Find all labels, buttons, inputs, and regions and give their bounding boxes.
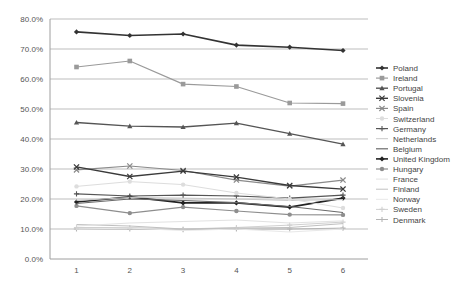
series-line — [77, 206, 344, 215]
legend-item-ireland: Ireland — [376, 74, 417, 83]
circle-marker-icon — [380, 116, 384, 120]
diamond-marker-icon — [127, 33, 132, 38]
series-france — [77, 220, 344, 226]
series-line — [77, 61, 344, 104]
circle-marker-icon — [181, 205, 185, 209]
series-hungary — [74, 204, 345, 217]
square-marker-icon — [181, 82, 186, 87]
circle-marker-icon — [234, 209, 238, 213]
diamond-marker-icon — [234, 43, 239, 48]
y-tick-label: 80.0% — [20, 15, 43, 24]
legend-label: Norway — [393, 195, 420, 204]
legend-item-switzerland: Switzerland — [376, 115, 434, 124]
legend-label: Poland — [393, 64, 418, 73]
y-tick-label: 50.0% — [20, 105, 43, 114]
x-tick-label: 4 — [234, 266, 239, 275]
circle-marker-icon — [341, 206, 345, 210]
legend-item-finland: Finland — [376, 185, 419, 194]
legend-label: Finland — [393, 185, 419, 194]
legend-item-united-kingdom: United Kingdom — [376, 155, 450, 164]
x-tick-label: 6 — [341, 266, 346, 275]
legend-item-denmark: Denmark — [376, 216, 426, 225]
legend-item-hungary: Hungary — [376, 165, 423, 174]
series-line — [77, 123, 344, 145]
series-portugal — [74, 120, 346, 146]
circle-marker-icon — [234, 191, 238, 195]
legend-label: Sweden — [393, 205, 422, 214]
legend-label: Switzerland — [393, 115, 434, 124]
y-tick-label: 0.0% — [25, 255, 43, 264]
diamond-marker-icon — [74, 29, 79, 34]
legend-label: Germany — [393, 125, 426, 134]
diamond-marker-icon — [379, 156, 384, 161]
circle-marker-icon — [128, 179, 132, 183]
legend-item-poland: Poland — [376, 64, 418, 73]
y-tick-label: 30.0% — [20, 165, 43, 174]
square-marker-icon — [128, 59, 133, 64]
legend-item-spain: Spain — [376, 104, 413, 113]
circle-marker-icon — [181, 182, 185, 186]
series-ireland — [74, 59, 345, 106]
plus-marker-icon — [379, 207, 384, 212]
plus-marker-icon — [340, 193, 345, 198]
legend-item-sweden: Sweden — [376, 205, 422, 214]
line-chart: 0.0%10.0%20.0%30.0%40.0%50.0%60.0%70.0%8… — [0, 0, 464, 283]
series-line — [77, 167, 344, 189]
legend-item-netherlands: Netherlands — [376, 135, 436, 144]
y-tick-label: 70.0% — [20, 45, 43, 54]
plus-marker-icon — [379, 126, 384, 131]
circle-marker-icon — [74, 184, 78, 188]
y-tick-label: 10.0% — [20, 225, 43, 234]
x-tick-label: 5 — [287, 266, 292, 275]
series-line — [77, 32, 344, 51]
legend-label: Hungary — [393, 165, 423, 174]
legend-item-norway: Norway — [376, 195, 420, 204]
legend-item-france: France — [376, 175, 418, 184]
plus-marker-icon — [181, 193, 186, 198]
diamond-marker-icon — [181, 31, 186, 36]
x-tick-label: 3 — [181, 266, 186, 275]
circle-marker-icon — [288, 212, 292, 216]
square-marker-icon — [380, 76, 385, 81]
legend-label: France — [393, 175, 418, 184]
series-spain — [74, 163, 346, 188]
plus-marker-icon — [74, 191, 79, 196]
legend-item-slovenia: Slovenia — [376, 94, 424, 103]
x-axis-ticks: 123456 — [74, 266, 346, 275]
data-series — [74, 29, 346, 232]
x-tick-label: 1 — [74, 266, 79, 275]
series-poland — [74, 29, 346, 53]
legend-item-belgium: Belgium — [376, 145, 422, 154]
legend-label: Spain — [393, 104, 413, 113]
circle-marker-icon — [341, 213, 345, 217]
series-slovenia — [74, 164, 346, 191]
legend-label: Slovenia — [393, 94, 424, 103]
circle-marker-icon — [288, 197, 292, 201]
x-tick-label: 2 — [128, 266, 133, 275]
square-marker-icon — [341, 101, 346, 106]
legend-label: Ireland — [393, 74, 417, 83]
legend-item-portugal: Portugal — [376, 84, 423, 93]
legend-label: United Kingdom — [393, 155, 450, 164]
square-marker-icon — [74, 65, 79, 70]
y-tick-label: 40.0% — [20, 135, 43, 144]
series-line — [77, 220, 344, 226]
legend-label: Netherlands — [393, 135, 436, 144]
legend-label: Belgium — [393, 145, 422, 154]
y-tick-label: 60.0% — [20, 75, 43, 84]
diamond-marker-icon — [379, 65, 384, 70]
legend: PolandIrelandPortugalSloveniaSpainSwitze… — [376, 64, 450, 225]
circle-marker-icon — [128, 211, 132, 215]
legend-label: Denmark — [393, 216, 426, 225]
legend-label: Portugal — [393, 84, 423, 93]
y-axis-ticks: 0.0%10.0%20.0%30.0%40.0%50.0%60.0%70.0%8… — [20, 15, 43, 264]
circle-marker-icon — [380, 167, 384, 171]
square-marker-icon — [234, 84, 239, 89]
legend-item-germany: Germany — [376, 125, 426, 134]
plus-marker-icon — [340, 226, 345, 231]
square-marker-icon — [287, 101, 292, 106]
plus-marker-icon — [379, 217, 384, 222]
y-tick-label: 20.0% — [20, 195, 43, 204]
